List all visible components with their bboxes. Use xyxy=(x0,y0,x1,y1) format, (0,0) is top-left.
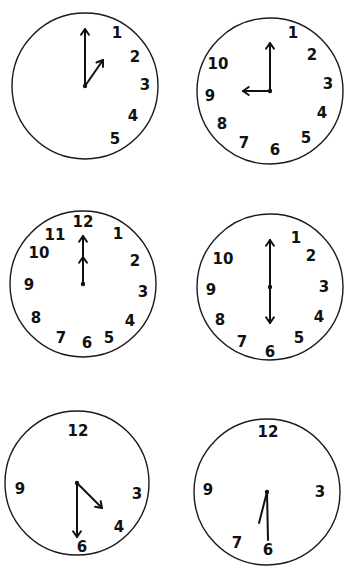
center-pivot xyxy=(265,490,269,494)
clock-numeral: 2 xyxy=(130,252,140,270)
clock-numeral: 1 xyxy=(112,24,122,42)
clock-numeral: 8 xyxy=(215,311,225,329)
clock-numeral: 2 xyxy=(307,46,317,64)
clock-numeral: 5 xyxy=(110,130,120,148)
clock-face-6: 123679 xyxy=(194,419,340,565)
clock-face-5: 123469 xyxy=(5,411,149,556)
clock-numeral: 6 xyxy=(263,541,273,559)
center-pivot xyxy=(83,84,87,88)
minute-hand xyxy=(267,492,268,540)
clock-numeral: 3 xyxy=(132,485,142,503)
clock-numeral: 4 xyxy=(114,518,124,536)
clock-numeral: 3 xyxy=(323,75,333,93)
clock-numeral: 6 xyxy=(270,141,280,159)
clock-numeral: 10 xyxy=(29,244,50,262)
center-pivot xyxy=(268,285,272,289)
clock-numeral: 12 xyxy=(68,422,89,440)
clock-face-1: 12345 xyxy=(12,13,158,159)
clock-numeral: 4 xyxy=(314,308,324,326)
clock-numeral: 9 xyxy=(24,276,34,294)
clock-face-4: 12345678910 xyxy=(197,214,343,361)
clock-face-2: 12345678910 xyxy=(197,18,343,164)
clock-numeral: 10 xyxy=(208,55,229,73)
center-pivot xyxy=(75,481,79,485)
clock-numeral: 5 xyxy=(104,329,114,347)
clock-numeral: 4 xyxy=(125,312,135,330)
clock-numeral: 7 xyxy=(232,534,242,552)
clock-numeral: 9 xyxy=(205,87,215,105)
clock-numeral: 3 xyxy=(315,483,325,501)
clock-numeral: 11 xyxy=(45,226,66,244)
clock-numeral: 9 xyxy=(15,480,25,498)
clock-numeral: 1 xyxy=(288,24,298,42)
clock-numeral: 5 xyxy=(294,329,304,347)
clock-numeral: 7 xyxy=(239,134,249,152)
clock-numeral: 8 xyxy=(31,309,41,327)
clock-numeral: 12 xyxy=(258,423,279,441)
clock-numeral: 7 xyxy=(56,329,66,347)
clock-numeral: 9 xyxy=(203,481,213,499)
clock-numeral: 9 xyxy=(206,281,216,299)
clock-numeral: 4 xyxy=(317,104,327,122)
clock-numeral: 2 xyxy=(306,247,316,265)
clock-numeral: 6 xyxy=(265,343,275,361)
clock-numeral: 6 xyxy=(82,334,92,352)
clock-numeral: 3 xyxy=(140,76,150,94)
clock-face-3: 121234567891011 xyxy=(10,211,156,357)
clock-numeral: 8 xyxy=(217,115,227,133)
clock-numeral: 3 xyxy=(138,283,148,301)
clock-numeral: 3 xyxy=(319,278,329,296)
clock-worksheet: 1234512345678910121234567891011123456789… xyxy=(0,0,348,571)
center-pivot xyxy=(268,89,272,93)
clock-numeral: 7 xyxy=(237,333,247,351)
clock-numeral: 10 xyxy=(213,250,234,268)
clock-numeral: 4 xyxy=(128,107,138,125)
clock-numeral: 5 xyxy=(301,129,311,147)
clock-numeral: 1 xyxy=(113,225,123,243)
clock-numeral: 6 xyxy=(77,538,87,556)
clock-numeral: 12 xyxy=(73,213,94,231)
clock-numeral: 2 xyxy=(130,48,140,66)
center-pivot xyxy=(81,282,85,286)
clock-numeral: 1 xyxy=(291,229,301,247)
